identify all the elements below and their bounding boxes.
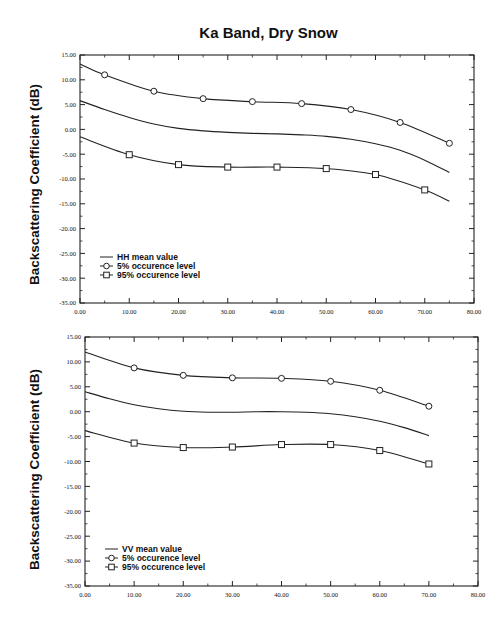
x-tick-label: 60.00 [368, 308, 383, 315]
square-marker [279, 442, 285, 448]
x-tick-label: 0.00 [74, 308, 85, 315]
circle-marker [249, 99, 255, 105]
y-tick-label: -10.00 [59, 175, 76, 182]
circle-marker [131, 365, 137, 371]
circle-marker [180, 372, 186, 378]
circle-marker [426, 403, 432, 409]
circle-marker [348, 107, 354, 113]
x-tick-label: 20.00 [171, 308, 186, 315]
x-tick-label: 10.00 [122, 308, 137, 315]
y-tick-label: 5.00 [65, 101, 76, 108]
chart-canvas: 0.0010.0020.0030.0040.0050.0060.0070.008… [0, 0, 497, 622]
y-tick-label: 15.00 [61, 51, 76, 58]
bottom-plot-panel: 0.0010.0020.0030.0040.0050.0060.0070.008… [64, 333, 485, 598]
circle-marker [446, 140, 452, 146]
y-tick-label: -5.00 [62, 151, 76, 158]
circle-marker [102, 72, 108, 78]
square-marker [328, 442, 334, 448]
legend-square-icon [104, 272, 110, 278]
top-plot-panel: 0.0010.0020.0030.0040.0050.0060.0070.008… [59, 51, 481, 315]
x-tick-label: 70.00 [422, 591, 437, 598]
y-tick-label: -35.00 [64, 582, 81, 589]
y-tick-label: -20.00 [64, 508, 81, 515]
square-marker [373, 172, 379, 178]
y-tick-label: -5.00 [67, 433, 81, 440]
square-marker [323, 166, 329, 172]
square-marker [176, 162, 182, 168]
square-marker [131, 440, 137, 446]
series-line [80, 64, 449, 143]
circle-marker [328, 378, 334, 384]
x-tick-label: 50.00 [319, 308, 334, 315]
y-tick-label: -25.00 [64, 533, 81, 540]
series-line [85, 392, 429, 436]
x-tick-label: 30.00 [225, 591, 240, 598]
series-line [85, 352, 429, 406]
legend-label: 95% occurence level [117, 270, 200, 280]
y-tick-label: 0.00 [70, 408, 81, 415]
square-marker [225, 164, 231, 170]
legend-circle-icon [109, 555, 115, 561]
legend-square-icon [109, 564, 115, 570]
square-marker [377, 448, 383, 454]
circle-marker [299, 101, 305, 107]
legend-label: 95% occurence level [122, 562, 205, 572]
y-tick-label: -20.00 [59, 225, 76, 232]
square-marker [422, 187, 428, 193]
circle-marker [200, 96, 206, 102]
y-tick-label: -10.00 [64, 458, 81, 465]
x-tick-label: 80.00 [471, 591, 486, 598]
y-tick-label: -30.00 [59, 275, 76, 282]
x-tick-label: 40.00 [274, 591, 289, 598]
circle-marker [229, 375, 235, 381]
x-tick-label: 20.00 [176, 591, 191, 598]
x-tick-label: 30.00 [220, 308, 235, 315]
x-tick-label: 80.00 [467, 308, 482, 315]
y-tick-label: 10.00 [66, 358, 81, 365]
square-marker [126, 152, 132, 158]
legend-circle-icon [104, 263, 110, 269]
x-tick-label: 40.00 [270, 308, 285, 315]
x-tick-label: 10.00 [127, 591, 142, 598]
square-marker [180, 445, 186, 451]
circle-marker [151, 88, 157, 94]
square-marker [426, 461, 432, 467]
series-line [80, 137, 449, 201]
y-tick-label: -30.00 [64, 557, 81, 564]
series-line [80, 101, 449, 173]
x-tick-label: 70.00 [417, 308, 432, 315]
y-tick-label: -25.00 [59, 250, 76, 257]
x-tick-label: 60.00 [372, 591, 387, 598]
x-tick-label: 50.00 [323, 591, 338, 598]
square-marker [274, 164, 280, 170]
y-tick-label: 15.00 [66, 333, 81, 340]
circle-marker [377, 387, 383, 393]
y-tick-label: -15.00 [64, 483, 81, 490]
x-tick-label: 0.00 [79, 591, 90, 598]
square-marker [229, 444, 235, 450]
circle-marker [279, 375, 285, 381]
y-tick-label: 10.00 [61, 76, 76, 83]
y-tick-label: -15.00 [59, 200, 76, 207]
circle-marker [397, 119, 403, 125]
y-tick-label: -35.00 [59, 299, 76, 306]
y-tick-label: 5.00 [70, 383, 81, 390]
y-tick-label: 0.00 [65, 126, 76, 133]
